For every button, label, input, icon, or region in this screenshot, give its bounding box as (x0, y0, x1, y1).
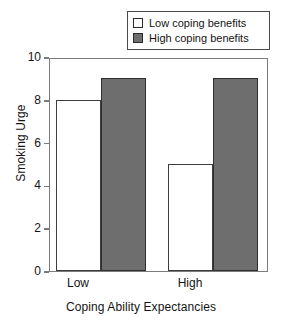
legend-label-low-coping-benefits: Low coping benefits (149, 17, 246, 29)
legend-label-high-coping-benefits: High coping benefits (149, 32, 249, 44)
x-axis-tick-label-high: High (155, 276, 225, 290)
bar-chart-figure: Low coping benefits High coping benefits… (0, 0, 282, 325)
y-axis-title: Smoking Urge (14, 68, 28, 218)
bar-high-low-coping-benefits (168, 164, 213, 271)
y-axis-tick-label-2: 2 (34, 221, 41, 236)
white-square-icon (133, 18, 143, 28)
y-axis-tick-label-0: 0 (34, 264, 41, 279)
plot-area (49, 58, 268, 272)
y-axis-tick-label-10: 10 (28, 50, 41, 65)
bar-high-high-coping-benefits (213, 78, 258, 271)
y-axis-tick-label-8: 8 (34, 93, 41, 108)
x-axis-title: Coping Ability Expectancies (0, 300, 282, 314)
legend-item-low-coping-benefits: Low coping benefits (133, 15, 264, 30)
gray-square-icon (133, 33, 143, 43)
legend-item-high-coping-benefits: High coping benefits (133, 30, 264, 45)
x-axis-tick-label-low: Low (43, 276, 113, 290)
bar-low-high-coping-benefits (101, 78, 146, 271)
chart-legend: Low coping benefits High coping benefits (127, 11, 270, 50)
y-axis-tick-label-4: 4 (34, 178, 41, 193)
y-axis-tick-label-6: 6 (34, 136, 41, 151)
bar-low-low-coping-benefits (56, 100, 101, 271)
